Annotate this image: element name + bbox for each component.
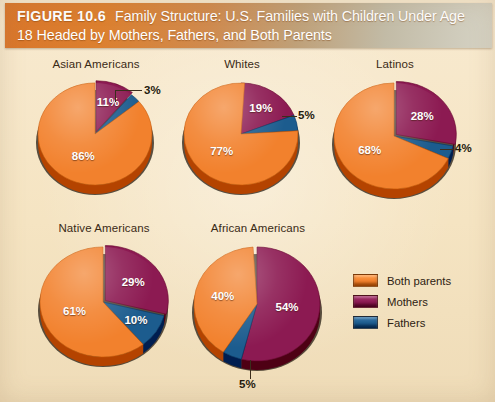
outer-label-fathers: 5%: [298, 109, 315, 121]
outer-label-fathers: 4%: [455, 142, 472, 154]
slice-label-mothers: 28%: [411, 110, 434, 122]
slice-label-both-parents: 40%: [211, 290, 234, 302]
legend-label-both-parents: Both parents: [387, 275, 451, 287]
banner-text: FIGURE 10.6Family Structure: U.S. Famili…: [17, 7, 486, 45]
slice-label-fathers: 10%: [124, 314, 147, 326]
slice-label-mothers: 19%: [249, 102, 272, 114]
legend-label-fathers: Fathers: [387, 317, 425, 329]
slice-label-mothers: 29%: [122, 276, 145, 288]
pie-disc-latinos: [328, 78, 462, 200]
pie-stage-latinos: 28%68%: [328, 78, 462, 200]
leader-line-horizontal: [282, 116, 297, 117]
slice-label-both-parents: 86%: [72, 150, 95, 162]
slice-label-both-parents: 61%: [63, 305, 86, 317]
banner-line-1: FIGURE 10.6Family Structure: U.S. Famili…: [17, 7, 486, 26]
banner-title-line-2: 18 Headed by Mothers, Fathers, and Both …: [17, 26, 486, 45]
slice-label-mothers: 54%: [275, 301, 298, 313]
leader-line-horizontal: [115, 90, 142, 91]
pie-title-whites: Whites: [172, 58, 312, 70]
figure-number: FIGURE 10.6: [17, 8, 106, 24]
banner-title-line-1: Family Structure: U.S. Families with Chi…: [115, 8, 465, 24]
legend-swatch-mothers: [353, 295, 378, 308]
legend-swatch-fathers: [353, 316, 378, 329]
legend-item-both-parents: Both parents: [353, 270, 451, 291]
figure-banner: FIGURE 10.6Family Structure: U.S. Famili…: [5, 3, 492, 48]
leader-line-horizontal: [440, 149, 454, 150]
pie-title-asian: Asian Americans: [22, 58, 170, 70]
pie-stage-african: 54%40%: [188, 242, 328, 372]
pie-title-latinos: Latinos: [320, 58, 470, 70]
chart-legend: Both parentsMothersFathers: [353, 270, 451, 333]
leader-line-vertical: [250, 360, 251, 379]
figure-container: FIGURE 10.6Family Structure: U.S. Famili…: [0, 0, 495, 402]
pie-stage-whites: 19%77%: [178, 78, 306, 196]
pie-stage-asian: 11%86%: [32, 78, 160, 196]
pie-title-native: Native Americans: [24, 222, 184, 234]
pie-disc-whites: [178, 78, 306, 196]
pie-title-african: African Americans: [178, 222, 338, 234]
legend-item-fathers: Fathers: [353, 312, 451, 333]
legend-swatch-both-parents: [353, 274, 378, 287]
pie-disc-native: [34, 242, 174, 368]
slice-label-both-parents: 77%: [210, 145, 233, 157]
legend-item-mothers: Mothers: [353, 291, 451, 312]
legend-label-mothers: Mothers: [387, 296, 428, 308]
pie-disc-african: [188, 242, 328, 372]
outer-label-fathers: 5%: [239, 378, 256, 390]
slice-label-both-parents: 68%: [358, 144, 381, 156]
pie-stage-native: 29%10%61%: [34, 242, 174, 368]
leader-line-vertical: [115, 90, 116, 102]
outer-label-fathers: 3%: [144, 84, 161, 96]
